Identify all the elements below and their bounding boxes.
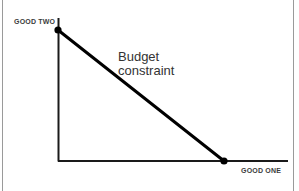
y-axis-label: GOOD TWO (14, 18, 55, 25)
plot-area: GOOD TWO GOOD ONE Budget constraint (0, 0, 299, 191)
x-axis-label: GOOD ONE (241, 167, 281, 174)
good-two-intercept-marker (54, 26, 61, 33)
budget-constraint-chart (0, 0, 299, 191)
good-one-intercept-marker (220, 157, 227, 164)
budget-constraint-annotation-line-2: constraint (118, 64, 174, 78)
budget-constraint-annotation: Budget constraint (118, 50, 174, 78)
budget-constraint-annotation-line-1: Budget (118, 50, 174, 64)
budget-constraint-figure: GOOD TWO GOOD ONE Budget constraint (0, 0, 299, 191)
